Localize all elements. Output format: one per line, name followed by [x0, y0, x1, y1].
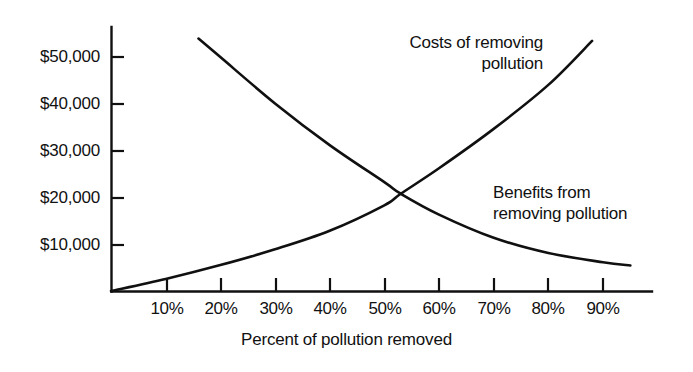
y-tick-label-20000: $20,000 — [4, 189, 100, 206]
pollution-cost-benefit-chart: $50,000 $40,000 $30,000 $20,000 $10,000 … — [0, 0, 693, 372]
y-tick-label-50000: $50,000 — [4, 48, 100, 65]
x-tick-label-10: 10% — [139, 300, 195, 317]
x-tick-label-50: 50% — [357, 300, 413, 317]
x-tick-label-30: 30% — [248, 300, 304, 317]
y-axis-ticks — [111, 57, 124, 245]
x-tick-label-60: 60% — [411, 300, 467, 317]
y-tick-label-40000: $40,000 — [4, 95, 100, 112]
costs-series-annotation: Costs of removing pollution — [338, 32, 543, 74]
x-axis-ticks — [167, 278, 603, 291]
x-tick-label-40: 40% — [302, 300, 358, 317]
x-tick-label-70: 70% — [466, 300, 522, 317]
x-tick-label-90: 90% — [575, 300, 631, 317]
y-tick-label-30000: $30,000 — [4, 142, 100, 159]
x-tick-label-20: 20% — [193, 300, 249, 317]
x-axis-title: Percent of pollution removed — [0, 331, 693, 349]
costs-curve — [111, 41, 592, 291]
x-tick-label-80: 80% — [520, 300, 576, 317]
benefits-series-annotation: Benefits from removing pollution — [493, 182, 691, 224]
y-tick-label-10000: $10,000 — [4, 236, 100, 253]
